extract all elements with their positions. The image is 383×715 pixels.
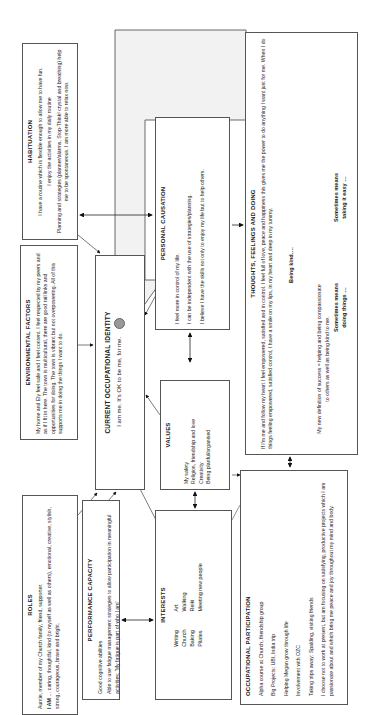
participation-item: Big Projects: UBI, India trip <box>270 476 278 696</box>
interest-item: Pilates <box>196 629 204 646</box>
performance-capacity-title: PERFORMANCE CAPACITY <box>86 506 95 694</box>
habituation-line-3: Planning and strategies (planner/alarms,… <box>56 49 71 234</box>
thoughts-feelings-doing-title: THOUGHTS, FEELINGS AND DOING <box>249 38 258 449</box>
interest-item: Meeting new people <box>196 563 204 611</box>
roles-box: ROLES Auntie, member of my Church family… <box>22 495 78 715</box>
values-box: VALUES My safety Religion, friendship an… <box>160 380 230 490</box>
values-item: Creativity <box>198 386 206 484</box>
interest-item: Walking <box>180 563 188 611</box>
interest-item: Baking <box>188 629 196 646</box>
values-item: My safety <box>183 386 191 484</box>
performance-capacity-box: PERFORMANCE CAPACITY Good cognitive abil… <box>82 500 120 700</box>
interests-box: INTERESTS Writing Church Baking Pilates … <box>155 510 232 700</box>
current-identity-title: CURRENT OCCUPATIONAL IDENTITY <box>103 261 112 484</box>
current-identity-box: CURRENT OCCUPATIONAL IDENTITY I am me. I… <box>95 255 145 490</box>
occupational-participation-title: OCCUPATIONAL PARTICIPATION <box>244 476 253 696</box>
personal-causation-line-1: I feel more in control of my life. <box>174 123 182 324</box>
personal-causation-box: PERSONAL CAUSATION I feel more in contro… <box>155 117 230 330</box>
habituation-box: HABITUATION I have a routine which is fl… <box>22 43 78 240</box>
interest-item: Art <box>172 563 180 611</box>
performance-capacity-line-2: Able to use fatigue management strategie… <box>106 506 121 694</box>
participation-item: Helping Megan grow through life <box>283 476 291 696</box>
interest-item: Church <box>180 629 188 646</box>
roles-line-1: Auntie, member of my Church family, frie… <box>37 501 45 709</box>
interests-title: INTERESTS <box>159 516 168 694</box>
values-title: VALUES <box>164 386 173 484</box>
personal-causation-title: PERSONAL CAUSATION <box>159 123 168 324</box>
participation-item: Taking trips away: Spalding, visiting fr… <box>308 476 316 696</box>
values-item: Being planful/organised <box>205 386 213 484</box>
interests-col-2: Art Walking Reiki Meeting new people <box>172 563 204 611</box>
habituation-line-1: I have a routine which is flexible enoug… <box>37 49 45 234</box>
roles-line-2: … caring, thoughtful, kind (to myself as… <box>46 507 60 709</box>
personal-causation-line-2: I can be independent with the use of str… <box>186 123 194 324</box>
interests-col-1: Writing Church Baking Pilates <box>172 629 204 646</box>
participation-item: Involvement with OZC <box>295 476 303 696</box>
interest-item: Reiki <box>188 563 196 611</box>
thoughts-text-1: If I'm me and follow my heart I feel emp… <box>260 38 275 449</box>
participation-item: I choose not to work at present, but am … <box>320 476 335 696</box>
environmental-factors-text: My home and Ely feel safe and I feel con… <box>35 251 65 434</box>
occupational-participation-box: OCCUPATIONAL PARTICIPATION Alpha course … <box>240 470 348 705</box>
environmental-factors-box: ENVIRONMENTAL FACTORS My home and Ely fe… <box>20 245 78 440</box>
habituation-line-2: I enjoy the activities in my daily routi… <box>46 49 54 234</box>
being-kind-label: Being kind…. <box>288 235 296 295</box>
habituation-title: HABITUATION <box>26 49 35 234</box>
roles-i-am-label: I AM <box>46 698 52 709</box>
personal-causation-line-3: I believe I have the skills not only to … <box>199 123 207 324</box>
current-identity-text: I am me. It's OK to be me, for me. <box>117 337 123 427</box>
values-item: Religion, friendship and love <box>190 386 198 484</box>
sometimes-easy-label: Sometimes means taking it easy … <box>333 170 349 225</box>
interests-columns: Writing Church Baking Pilates Art Walkin… <box>172 516 204 694</box>
thoughts-text-2: My new definition of success = helping a… <box>316 284 331 434</box>
environmental-factors-title: ENVIRONMENTAL FACTORS <box>24 251 33 434</box>
thoughts-feelings-doing-box: THOUGHTS, FEELINGS AND DOING If I'm me a… <box>245 32 358 455</box>
participation-item: Alpha course at Church, friendship group <box>258 476 266 696</box>
smiley-face-icon <box>114 318 125 329</box>
moho-diagram: HABITUATION I have a routine which is fl… <box>0 0 383 715</box>
roles-title: ROLES <box>26 501 35 709</box>
performance-capacity-line-1: Good cognitive abilities <box>97 506 105 694</box>
sometimes-doing-label: Sometimes means doing things … <box>333 280 349 335</box>
interest-item: Writing <box>172 629 180 646</box>
